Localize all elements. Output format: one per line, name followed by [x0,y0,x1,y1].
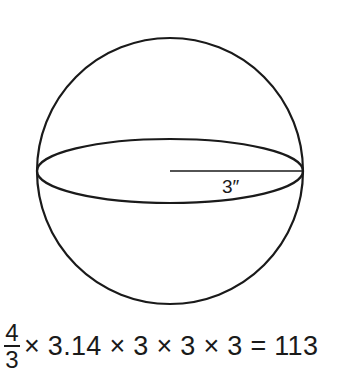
fraction-denominator: 3 [5,349,18,371]
volume-formula: 4 3 × 3.14 × 3 × 3 × 3 = 113 [4,318,318,374]
radius-label: 3″ [222,176,239,198]
fraction: 4 3 [4,322,20,371]
fraction-numerator: 4 [5,322,18,344]
formula-expression: × 3.14 × 3 × 3 × 3 = 113 [24,331,318,362]
